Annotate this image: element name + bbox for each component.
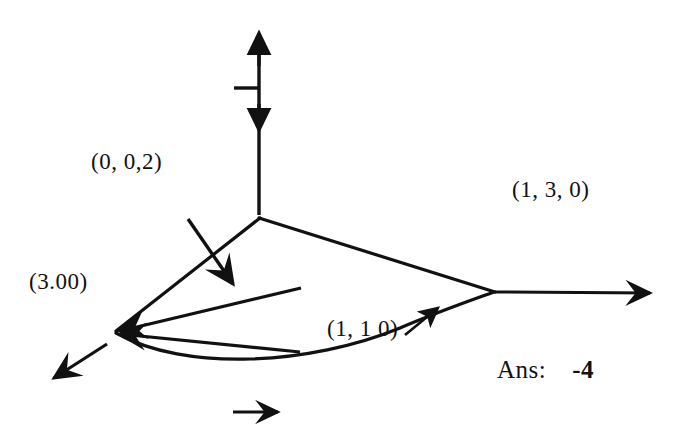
down-left-arrow (54, 344, 107, 378)
answer-prefix: Ans: (497, 356, 546, 383)
right-vertex-to-tip-arrow (495, 292, 650, 293)
vector-curve-label: (1, 1 0) (327, 317, 398, 340)
z-axis-group (234, 33, 260, 215)
lower-left-pointing-arrow (120, 334, 300, 352)
apex-to-right-vertex-edge (259, 218, 495, 292)
left-vertex-arrows (54, 288, 301, 378)
vector-left-label: (3.00) (29, 270, 88, 293)
figure-canvas: (0, 0,2) (1, 3, 0) (3.00) (1, 1 0) Ans:-… (0, 0, 686, 442)
upper-left-pointing-arrow (120, 288, 301, 331)
vector-right-label: (1, 3, 0) (512, 178, 589, 201)
answer-value: -4 (572, 356, 594, 383)
diagonal-down-right-arrow (188, 219, 233, 284)
curved-arc-arrowhead (405, 308, 438, 335)
curved-arc-path (116, 292, 494, 359)
answer-block: Ans:-4 (497, 357, 594, 382)
curved-arc-group (116, 292, 494, 359)
vector-z-label: (0, 0,2) (91, 150, 162, 173)
